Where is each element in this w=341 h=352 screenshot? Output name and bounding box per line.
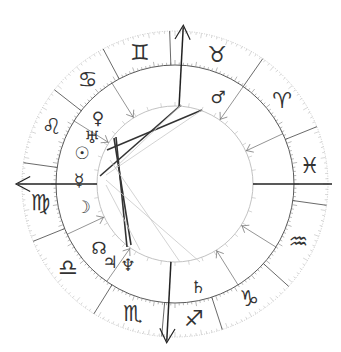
zodiac-tick: [251, 275, 254, 279]
outer-tick: [81, 303, 83, 305]
zodiac-tick: [196, 62, 197, 67]
zodiac-leo-icon: ♌: [42, 114, 62, 139]
outer-tick: [255, 54, 256, 56]
outer-tick: [216, 37, 217, 39]
zodiac-tick: [133, 296, 135, 301]
inner-tick: [122, 244, 125, 247]
outer-tick: [138, 36, 139, 38]
outer-tick: [280, 292, 282, 294]
outer-tick: [54, 277, 56, 279]
outer-tick: [288, 279, 292, 282]
zodiac-pisces-icon: ♓: [300, 153, 320, 178]
house-cusp-line: [112, 83, 134, 118]
aspect-line: [115, 105, 181, 168]
outer-tick: [312, 122, 314, 123]
zodiac-tick: [208, 67, 209, 69]
outer-tick: [231, 42, 232, 44]
outer-tick: [255, 312, 256, 314]
outer-tick: [128, 327, 129, 329]
outer-tick: [270, 297, 273, 301]
outer-tick: [85, 306, 86, 308]
zodiac-capricorn-icon: ♑: [239, 286, 259, 311]
zodiac-tick: [269, 109, 271, 111]
zodiac-tick: [285, 229, 287, 230]
zodiac-tick: [271, 254, 273, 255]
zodiac-tick: [280, 127, 282, 128]
outer-tick: [108, 46, 109, 48]
zodiac-tick: [100, 88, 102, 90]
outer-tick: [310, 250, 312, 251]
zodiac-tick: [113, 287, 116, 291]
outer-tick: [276, 296, 278, 298]
zodiac-tick: [104, 280, 105, 282]
zodiac-tick: [282, 236, 284, 237]
zodiac-tick: [95, 275, 98, 279]
outer-tick: [89, 57, 90, 59]
zodiac-tick: [287, 142, 292, 144]
outer-tick: [297, 272, 299, 273]
zodiac-tick: [137, 297, 138, 299]
sign-cusp-line: [243, 59, 263, 87]
planet-venus-icon: ♀: [92, 108, 104, 128]
outer-tick: [270, 67, 273, 71]
inner-tick: [161, 261, 162, 265]
sign-cusp-line: [293, 201, 327, 206]
zodiac-tick: [248, 88, 250, 90]
zodiac-tick: [271, 113, 273, 114]
outer-tick: [280, 74, 282, 76]
outer-tick: [322, 215, 324, 216]
zodiac-tick: [288, 146, 290, 147]
outer-tick: [113, 44, 114, 46]
outer-tick: [27, 220, 29, 221]
house-cusps: [16, 25, 332, 343]
zodiac-tick: [56, 209, 58, 210]
zodiac-tick: [251, 89, 254, 93]
zodiac-tick: [274, 116, 276, 117]
outer-tick: [65, 78, 67, 80]
zodiac-tick: [129, 294, 130, 296]
zodiac-tick: [150, 300, 151, 302]
outer-tick: [201, 33, 202, 38]
zodiac-tick: [227, 291, 228, 293]
outer-tick: [51, 94, 53, 95]
outer-tick: [133, 37, 134, 39]
zodiac-tick: [274, 251, 276, 252]
zodiac-tick: [77, 113, 79, 114]
sign-cusp-line: [23, 163, 57, 168]
outer-tick: [89, 309, 90, 311]
zodiac-tick: [269, 257, 271, 259]
outer-tick: [27, 147, 29, 148]
zodiac-tick: [284, 135, 286, 136]
zodiac-tick: [94, 272, 96, 274]
outer-tick: [148, 330, 149, 335]
house-cusp-line: [241, 225, 276, 247]
outer-tick: [42, 108, 46, 111]
outer-tick: [143, 331, 144, 333]
sign-cusp-line: [170, 31, 171, 65]
zodiac-tick: [153, 301, 154, 306]
outer-tick: [35, 122, 37, 123]
inner-tick: [104, 223, 107, 225]
outer-tick: [321, 157, 326, 158]
outer-tick: [37, 117, 39, 118]
zodiac-tick: [72, 120, 74, 121]
aspect-line: [100, 105, 181, 176]
zodiac-tick: [216, 296, 218, 301]
zodiac-tick: [291, 159, 293, 160]
zodiac-tick: [64, 135, 66, 136]
zodiac-tick: [261, 267, 263, 269]
zodiac-tick: [122, 291, 123, 293]
zodiac-tick: [245, 86, 246, 88]
outer-tick: [61, 82, 63, 84]
outer-tick: [25, 152, 27, 153]
outer-tick: [249, 51, 252, 55]
zodiac-tick: [235, 287, 238, 291]
planet-mercury-icon: ☿: [74, 170, 84, 190]
outer-tick: [241, 319, 242, 321]
outer-tick: [321, 147, 323, 148]
zodiac-tick: [276, 247, 278, 248]
inner-tick: [161, 103, 162, 107]
zodiac-tick: [238, 81, 239, 83]
zodiac-tick: [223, 293, 224, 295]
outer-tick: [69, 292, 71, 294]
